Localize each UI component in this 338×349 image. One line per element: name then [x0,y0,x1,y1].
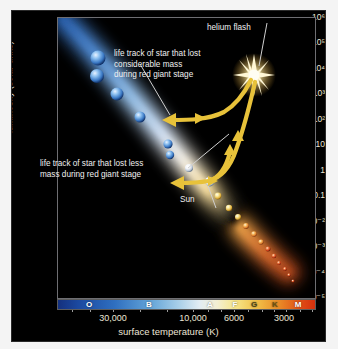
spectral-class-bar [57,299,316,310]
sun-marker [206,178,215,187]
y-axis-title: luminosity (solar units) [12,11,14,133]
x-tick-label: 10,000 [179,313,207,323]
annotation-less-mass-line2: mass during red giant stage [40,170,143,181]
helium-flash-burst [232,53,276,97]
track-arrowheads [162,113,244,190]
evolution-tracks [170,80,255,183]
figure-page: luminosity (solar units) 10⁶10⁵10⁴10³10²… [0,0,338,349]
annotation-sun-label: Sun [180,195,195,206]
x-tick-label: 3000 [274,313,294,323]
annotation-sun: Sun [180,195,195,206]
annotation-less-mass-line1: life track of star that lost less [40,159,143,170]
x-axis-title: surface temperature (K) [12,326,325,337]
annotation-helium-flash-line1: helium flash [207,23,251,34]
x-tick-label: 30,000 [99,313,127,323]
annotation-less-mass: life track of star that lost less mass d… [40,159,143,180]
annotation-considerable-mass-line2: considerable mass [114,60,200,71]
x-tick-label: 6000 [224,313,244,323]
annotation-helium-flash: helium flash [207,23,251,34]
annotation-considerable-mass-line1: life track of star that lost [114,49,200,60]
annotation-considerable-mass: life track of star that lost considerabl… [114,49,200,81]
figure-panel: luminosity (solar units) 10⁶10⁵10⁴10³10²… [12,11,325,341]
annotation-considerable-mass-line3: during red giant stage [114,70,200,81]
